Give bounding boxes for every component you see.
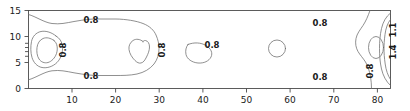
x-tick-label: 40 — [197, 95, 209, 105]
y-tick-label: 10 — [10, 32, 22, 42]
y-tick-label: 5 — [15, 58, 21, 68]
plot-canvas: 10 20 30 40 50 60 70 80 0 5 10 — [0, 0, 410, 111]
contour-level-right-blob — [369, 37, 384, 59]
x-tick-label: 20 — [110, 95, 122, 105]
contour-level-small-circle — [269, 40, 286, 57]
x-axis-tick-labels: 10 20 30 40 50 60 70 80 — [66, 95, 383, 105]
contour-label-0.8: 0.8 — [365, 63, 375, 78]
contour-labels: 0.8 0.8 0.8 0.8 0.8 0.8 0.8 0.8 1.1 1.4 — [58, 15, 398, 82]
y-axis-minor-ticks — [25, 43, 29, 56]
contour-label-0.8: 0.8 — [83, 71, 98, 81]
contour-label-0.8: 0.8 — [312, 72, 327, 82]
x-tick-label: 70 — [328, 95, 340, 105]
y-tick-label: 15 — [10, 6, 21, 16]
contour-plot-figure: 10 20 30 40 50 60 70 80 0 5 10 — [0, 0, 410, 111]
contour-label-0.8: 0.8 — [83, 15, 98, 25]
contour-label-0.8: 0.8 — [204, 40, 219, 50]
x-tick-label: 60 — [284, 95, 296, 105]
contour-level-inner-left — [37, 38, 57, 63]
y-axis-tick-labels: 0 5 10 15 — [10, 6, 22, 94]
x-axis-ticks — [72, 89, 377, 93]
contour-label-0.8: 0.8 — [58, 42, 68, 57]
x-tick-label: 50 — [241, 95, 253, 105]
y-axis-ticks — [25, 11, 29, 89]
contour-label-1.1: 1.1 — [388, 22, 398, 37]
contour-level-heart-blob — [129, 39, 150, 63]
x-tick-label: 30 — [153, 95, 165, 105]
contour-label-0.8: 0.8 — [312, 18, 327, 28]
contour-label-1.4: 1.4 — [388, 44, 398, 59]
y-tick-label: 0 — [15, 84, 21, 94]
x-tick-label: 80 — [372, 95, 384, 105]
contour-label-0.8: 0.8 — [157, 42, 167, 57]
x-tick-label: 10 — [66, 95, 78, 105]
